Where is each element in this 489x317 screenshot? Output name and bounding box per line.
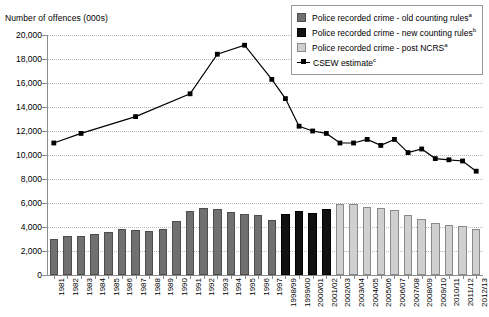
x-axis-tick-label-2007-08: 2007/08 bbox=[412, 278, 421, 307]
x-axis-tick-mark bbox=[394, 275, 395, 279]
x-axis-tick-label-1997: 1997 bbox=[275, 278, 284, 296]
csew-data-point bbox=[51, 141, 56, 146]
x-axis-tick-label-1983: 1983 bbox=[85, 278, 94, 296]
legend-footnote-marker: c bbox=[373, 57, 376, 63]
x-axis-tick-label-2002-03: 2002/03 bbox=[343, 278, 352, 307]
x-axis-tick-label-1982: 1982 bbox=[71, 278, 80, 296]
chart-legend: Police recorded crime - old counting rul… bbox=[291, 5, 483, 75]
csew-data-point bbox=[338, 141, 343, 146]
csew-data-point bbox=[297, 124, 302, 129]
legend-label-old: Police recorded crime - old counting rul… bbox=[312, 12, 472, 23]
x-axis-tick-label-1994: 1994 bbox=[234, 278, 243, 296]
x-axis-tick-mark bbox=[163, 275, 164, 279]
x-axis-tick-mark bbox=[204, 275, 205, 279]
csew-data-point bbox=[406, 150, 411, 155]
x-axis-tick-label-1996: 1996 bbox=[262, 278, 271, 296]
y-axis-tick-label: 20,000 bbox=[16, 30, 42, 40]
csew-data-point bbox=[242, 43, 247, 48]
x-axis-tick-mark bbox=[149, 275, 150, 279]
csew-data-point bbox=[365, 137, 370, 142]
x-axis-tick-mark bbox=[54, 275, 55, 279]
x-axis-tick-label-2006-07: 2006/07 bbox=[398, 278, 407, 307]
csew-data-point bbox=[474, 169, 479, 174]
legend-footnote-marker: a bbox=[468, 12, 471, 18]
csew-data-point bbox=[392, 137, 397, 142]
x-axis-tick-label-2011-12: 2011/12 bbox=[466, 278, 475, 306]
x-axis-tick-label-1992: 1992 bbox=[207, 278, 216, 296]
x-axis-tick-mark bbox=[136, 275, 137, 279]
csew-data-point bbox=[79, 131, 84, 136]
legend-swatch-ncrs-icon bbox=[297, 43, 306, 52]
csew-data-point bbox=[269, 77, 274, 82]
y-axis-tick-label: 14,000 bbox=[16, 102, 42, 112]
x-axis-tick-mark bbox=[122, 275, 123, 279]
y-axis-tick-label: 6,000 bbox=[21, 198, 42, 208]
x-axis-tick-label-1981: 1981 bbox=[57, 278, 66, 296]
csew-data-point bbox=[351, 141, 356, 146]
x-axis-tick-mark bbox=[190, 275, 191, 279]
csew-data-point bbox=[433, 156, 438, 161]
legend-item-new-counting-rules: Police recorded crime - new counting rul… bbox=[297, 25, 476, 40]
csew-data-point bbox=[215, 52, 220, 57]
legend-label-csew: CSEW estimatec bbox=[313, 57, 376, 68]
x-axis-tick-mark bbox=[476, 275, 477, 279]
x-axis-tick-mark bbox=[258, 275, 259, 279]
x-axis-tick-mark bbox=[381, 275, 382, 279]
legend-item-csew-estimate: CSEW estimatec bbox=[297, 55, 476, 70]
x-axis-tick-label-2004-05: 2004/05 bbox=[371, 278, 380, 307]
x-axis-tick-mark bbox=[313, 275, 314, 279]
x-axis-tick-label-2005-06: 2005/06 bbox=[384, 278, 393, 307]
x-axis-tick-label-1995: 1995 bbox=[248, 278, 257, 296]
x-axis-tick-mark bbox=[449, 275, 450, 279]
x-axis-tick-mark bbox=[354, 275, 355, 279]
legend-swatch-old-icon bbox=[297, 13, 306, 22]
y-axis-tick-label: 4,000 bbox=[21, 222, 42, 232]
x-axis-tick-label-1986: 1986 bbox=[125, 278, 134, 296]
x-axis-tick-label-1991: 1991 bbox=[194, 278, 203, 296]
x-axis-tick-mark bbox=[285, 275, 286, 279]
x-axis-tick-label-1988: 1988 bbox=[153, 278, 162, 296]
x-axis-tick-label-1989: 1989 bbox=[166, 278, 175, 296]
x-axis-tick-label-1987: 1987 bbox=[139, 278, 148, 296]
x-axis-line bbox=[47, 275, 483, 276]
x-axis-tick-mark bbox=[367, 275, 368, 279]
x-axis-tick-mark bbox=[272, 275, 273, 279]
csew-data-point bbox=[378, 143, 383, 148]
legend-item-post-ncrs: Police recorded crime - post NCRSa bbox=[297, 40, 476, 55]
y-axis-tick-label: 12,000 bbox=[16, 126, 42, 136]
x-axis-tick-label-1999-00: 1999/00 bbox=[303, 278, 312, 307]
x-axis-tick-label-1993: 1993 bbox=[221, 278, 230, 296]
x-axis-tick-mark bbox=[108, 275, 109, 279]
x-axis-tick-label-2008-09: 2008/09 bbox=[425, 278, 434, 307]
y-axis-tick-label: 16,000 bbox=[16, 78, 42, 88]
x-axis-tick-label-2010-11: 2010/11 bbox=[452, 278, 461, 306]
legend-item-old-counting-rules: Police recorded crime - old counting rul… bbox=[297, 10, 476, 25]
x-axis-tick-mark bbox=[422, 275, 423, 279]
x-axis-tick-mark bbox=[176, 275, 177, 279]
legend-footnote-marker: b bbox=[473, 27, 476, 33]
y-axis-labels: 20,00018,00016,00014,00012,00010,0008,00… bbox=[0, 0, 42, 317]
x-axis-tick-mark bbox=[245, 275, 246, 279]
x-axis-tick-label-2012-13: 2012/13 bbox=[480, 278, 489, 307]
legend-label-new: Police recorded crime - new counting rul… bbox=[312, 27, 476, 38]
x-axis-tick-label-2009-10: 2009/10 bbox=[439, 278, 448, 307]
csew-data-point bbox=[283, 96, 288, 101]
x-axis-tick-mark bbox=[67, 275, 68, 279]
csew-data-point bbox=[447, 157, 452, 162]
x-axis-tick-mark bbox=[435, 275, 436, 279]
x-axis-tick-label-1998-99: 1998/99 bbox=[289, 278, 298, 307]
y-axis-tick-label: 10,000 bbox=[16, 150, 42, 160]
legend-footnote-marker: a bbox=[444, 42, 447, 48]
y-axis-tick-label: 8,000 bbox=[21, 174, 42, 184]
x-axis-tick-mark bbox=[299, 275, 300, 279]
csew-data-point bbox=[133, 114, 138, 119]
y-axis-line bbox=[47, 35, 48, 276]
x-axis-tick-mark bbox=[231, 275, 232, 279]
x-axis-tick-label-1984: 1984 bbox=[98, 278, 107, 296]
csew-data-point bbox=[188, 91, 193, 96]
legend-label-ncrs: Police recorded crime - post NCRSa bbox=[312, 42, 448, 53]
x-axis-tick-mark bbox=[463, 275, 464, 279]
csew-data-point bbox=[324, 131, 329, 136]
x-axis-tick-mark bbox=[408, 275, 409, 279]
